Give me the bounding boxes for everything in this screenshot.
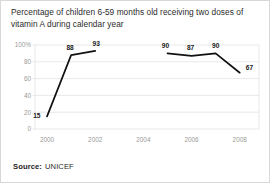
svg-text:80: 80 bbox=[24, 58, 32, 65]
chart-card: Percentage of children 6-59 months old r… bbox=[0, 0, 270, 183]
chart-title: Percentage of children 6-59 months old r… bbox=[11, 7, 259, 30]
data-point-labels: 15889390879067 bbox=[33, 40, 253, 119]
svg-text:90: 90 bbox=[212, 42, 220, 49]
svg-text:20: 20 bbox=[24, 109, 32, 116]
svg-text:2004: 2004 bbox=[136, 136, 151, 143]
svg-text:60: 60 bbox=[24, 75, 32, 82]
line-chart-svg: 020406080100% 20002002200420062008 15889… bbox=[9, 37, 263, 149]
plot-border bbox=[35, 45, 259, 129]
svg-text:40: 40 bbox=[24, 92, 32, 99]
svg-text:2002: 2002 bbox=[88, 136, 103, 143]
svg-text:15: 15 bbox=[33, 112, 41, 119]
svg-text:2000: 2000 bbox=[40, 136, 55, 143]
svg-text:88: 88 bbox=[66, 44, 74, 51]
data-line-series bbox=[47, 51, 240, 117]
svg-text:100%: 100% bbox=[15, 41, 32, 48]
chart-plot-area: 020406080100% 20002002200420062008 15889… bbox=[9, 37, 263, 149]
svg-text:67: 67 bbox=[246, 64, 254, 71]
y-axis-tick-labels: 020406080100% bbox=[15, 41, 32, 132]
svg-text:87: 87 bbox=[187, 44, 195, 51]
source-note: Source:UNICEF bbox=[13, 162, 74, 171]
source-value: UNICEF bbox=[45, 162, 74, 171]
svg-text:2006: 2006 bbox=[184, 136, 199, 143]
x-axis-tick-labels: 20002002200420062008 bbox=[40, 136, 247, 143]
grid-lines bbox=[33, 45, 260, 129]
source-label: Source: bbox=[13, 162, 42, 171]
svg-text:93: 93 bbox=[93, 40, 101, 47]
svg-text:90: 90 bbox=[162, 42, 170, 49]
svg-text:2008: 2008 bbox=[233, 136, 248, 143]
svg-text:0: 0 bbox=[27, 125, 31, 132]
